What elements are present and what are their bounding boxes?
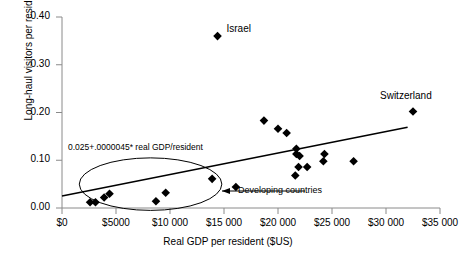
x-tick-label: $5000	[86, 217, 146, 228]
point-label-israel: Israel	[227, 23, 251, 34]
data-point-marker	[294, 163, 303, 172]
x-tick-label: $30 000	[356, 217, 416, 228]
data-point-marker	[319, 157, 328, 166]
point-label-switzerland: Switzerland	[380, 90, 432, 101]
developing-countries-ellipse	[79, 158, 222, 211]
y-tick-label: 0.10	[10, 153, 50, 164]
data-point-marker	[303, 163, 312, 172]
y-tick-label: 0.00	[10, 201, 50, 212]
x-axis-ticks	[62, 208, 440, 214]
data-point-marker	[320, 150, 329, 159]
x-tick-label: $15 000	[194, 217, 254, 228]
y-axis-label: Long-haul visitors per resident	[23, 0, 34, 144]
data-point-marker	[282, 129, 291, 138]
x-tick-label: $25 000	[302, 217, 362, 228]
data-point-marker	[213, 32, 222, 41]
y-tick-label: 0.20	[10, 106, 50, 117]
data-point-marker	[274, 124, 283, 133]
data-point-marker	[208, 175, 217, 184]
data-point-marker	[161, 188, 170, 197]
data-point-marker	[409, 107, 418, 116]
y-tick-label: 0.30	[10, 58, 50, 69]
data-point-marker	[152, 197, 161, 206]
chart-figure: Long-haul visitors per resident Real GDP…	[0, 0, 460, 257]
data-point-marker	[349, 157, 358, 166]
developing-countries-label: Developing countries	[238, 185, 322, 195]
x-tick-label: $35 000	[410, 217, 460, 228]
x-tick-label: $20 000	[248, 217, 308, 228]
data-markers	[86, 32, 418, 207]
data-point-marker	[260, 116, 269, 125]
x-axis-label: Real GDP per resident ($US)	[60, 236, 396, 247]
y-tick-label: 0.40	[10, 10, 50, 21]
data-point-marker	[291, 171, 300, 180]
regression-equation-annotation: 0.025+.0000045* real GDP/resident	[68, 142, 203, 152]
y-axis-ticks	[56, 17, 62, 208]
x-tick-label: $10 000	[140, 217, 200, 228]
x-tick-label: $0	[32, 217, 92, 228]
